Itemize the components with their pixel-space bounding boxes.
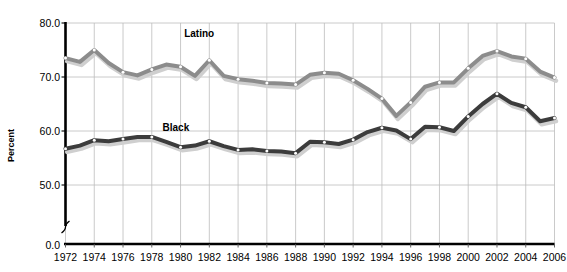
y-axis-tick-label: 70.0 — [14, 71, 60, 83]
x-axis-tick-label: 1972 — [50, 251, 82, 263]
y-axis-tick-label: 80.0 — [14, 17, 60, 29]
x-axis-tick-label: 2006 — [539, 251, 567, 263]
x-axis-tick-label: 1978 — [136, 251, 168, 263]
series-annotation-black: Black — [163, 122, 190, 133]
x-axis-tick-label: 1980 — [165, 251, 197, 263]
x-axis-tick-label: 1998 — [423, 251, 455, 263]
x-axis-tick-label: 2002 — [481, 251, 513, 263]
x-axis-tick-label: 2004 — [510, 251, 542, 263]
x-axis-tick-label: 1990 — [308, 251, 340, 263]
x-axis-tick-label: 1996 — [395, 251, 427, 263]
x-axis-tick-label: 1986 — [251, 251, 283, 263]
x-axis-tick-label: 1974 — [78, 251, 110, 263]
x-axis-tick-label: 1984 — [222, 251, 254, 263]
x-axis-tick-label: 2000 — [452, 251, 484, 263]
chart-plot-area — [0, 0, 567, 272]
y-axis-tick-label: 0.0 — [14, 239, 60, 251]
y-axis-tick-label: 50.0 — [14, 179, 60, 191]
series-annotation-latino: Latino — [184, 28, 214, 39]
x-axis-tick-label: 1994 — [366, 251, 398, 263]
line-chart: 0.050.060.070.080.0197219741976197819801… — [0, 0, 567, 272]
x-axis-tick-label: 1976 — [107, 251, 139, 263]
x-axis-tick-label: 1988 — [280, 251, 312, 263]
y-axis-tick-label: 60.0 — [14, 125, 60, 137]
x-axis-tick-label: 1992 — [337, 251, 369, 263]
y-axis-title: Percent — [6, 129, 16, 162]
series-black — [64, 92, 556, 156]
x-axis-tick-label: 1982 — [193, 251, 225, 263]
